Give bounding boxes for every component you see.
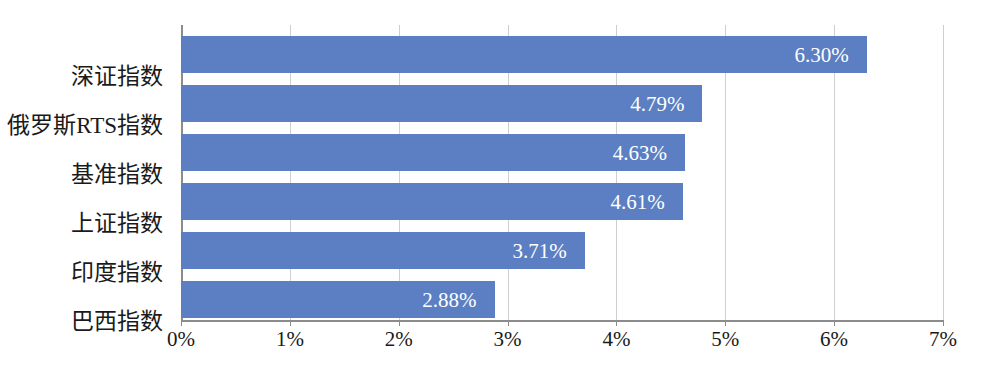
tick-label: 3% <box>494 327 522 352</box>
category-axis-line <box>181 320 943 322</box>
tick-mark <box>508 320 509 326</box>
tick-label: 2% <box>385 327 413 352</box>
gridline <box>943 25 944 320</box>
tick-label: 5% <box>711 327 739 352</box>
bar[interactable] <box>181 85 702 122</box>
tick-mark <box>290 320 291 326</box>
bar-value-label: 2.88% <box>422 287 476 312</box>
category-label: 俄罗斯RTS指数 <box>0 114 163 137</box>
tick-mark <box>616 320 617 326</box>
tick-mark <box>181 320 182 326</box>
tick-mark <box>725 320 726 326</box>
plot-area: 6.30% 4.79% 4.63% 4.61% 3.71% 2.88% <box>181 25 943 320</box>
value-axis-labels: 0% 1% 2% 3% 4% 5% 6% 7% <box>181 327 943 367</box>
bar-value-label: 4.79% <box>630 91 684 116</box>
category-label: 深证指数 <box>0 65 163 88</box>
tick-label: 0% <box>167 327 195 352</box>
category-axis-labels: 深证指数 俄罗斯RTS指数 基准指数 上证指数 印度指数 巴西指数 <box>0 25 175 320</box>
tick-label: 6% <box>820 327 848 352</box>
bar[interactable] <box>181 36 867 73</box>
tick-mark <box>399 320 400 326</box>
category-label: 上证指数 <box>0 212 163 235</box>
category-label: 基准指数 <box>0 163 163 186</box>
tick-label: 4% <box>602 327 630 352</box>
tick-label: 7% <box>929 327 957 352</box>
category-label: 印度指数 <box>0 261 163 284</box>
bar[interactable] <box>181 183 683 220</box>
tick-mark <box>834 320 835 326</box>
category-label: 巴西指数 <box>0 310 163 333</box>
tick-label: 1% <box>276 327 304 352</box>
bar[interactable] <box>181 134 685 171</box>
bar-chart: 深证指数 俄罗斯RTS指数 基准指数 上证指数 印度指数 巴西指数 6.30% … <box>0 0 992 379</box>
bar-value-label: 6.30% <box>795 42 849 67</box>
tick-mark <box>943 320 944 326</box>
bar-value-label: 3.71% <box>513 238 567 263</box>
bar-value-label: 4.63% <box>613 140 667 165</box>
bar-value-label: 4.61% <box>611 189 665 214</box>
